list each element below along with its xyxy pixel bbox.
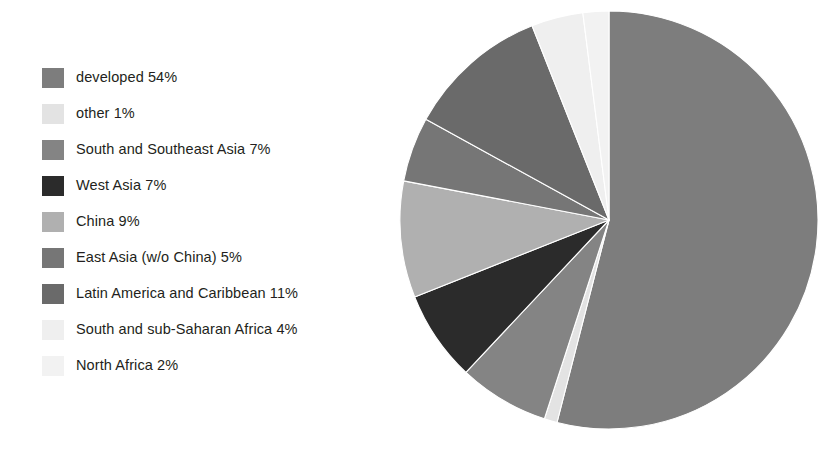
legend-item-label: developed 54% <box>76 70 177 86</box>
legend-item[interactable]: other 1% <box>42 96 372 132</box>
legend-swatch <box>42 284 64 304</box>
legend-item[interactable]: South and Southeast Asia 7% <box>42 132 372 168</box>
legend-item-label: South and sub-Saharan Africa 4% <box>76 322 298 338</box>
legend-swatch <box>42 356 64 376</box>
legend-item-label: Latin America and Caribbean 11% <box>76 286 298 302</box>
legend-swatch <box>42 212 64 232</box>
legend-swatch <box>42 248 64 268</box>
legend-item[interactable]: developed 54% <box>42 60 372 96</box>
pie-chart: developed 54%other 1%South and Southeast… <box>399 10 819 430</box>
legend-item[interactable]: South and sub-Saharan Africa 4% <box>42 312 372 348</box>
legend-item-label: East Asia (w/o China) 5% <box>76 250 242 266</box>
legend-item[interactable]: East Asia (w/o China) 5% <box>42 240 372 276</box>
pie-chart-figure: developed 54%other 1%South and Southeast… <box>0 0 840 451</box>
legend-item[interactable]: North Africa 2% <box>42 348 372 384</box>
legend-swatch <box>42 68 64 88</box>
legend-item-label: North Africa 2% <box>76 358 178 374</box>
pie-chart-svg: developed 54%other 1%South and Southeast… <box>399 10 819 430</box>
legend-item[interactable]: West Asia 7% <box>42 168 372 204</box>
legend-swatch <box>42 104 64 124</box>
legend-item[interactable]: Latin America and Caribbean 11% <box>42 276 372 312</box>
legend-item[interactable]: China 9% <box>42 204 372 240</box>
chart-legend: developed 54%other 1%South and Southeast… <box>42 60 372 384</box>
legend-item-label: other 1% <box>76 106 135 122</box>
legend-swatch <box>42 176 64 196</box>
legend-swatch <box>42 320 64 340</box>
legend-item-label: China 9% <box>76 214 140 230</box>
legend-item-label: West Asia 7% <box>76 178 166 194</box>
legend-swatch <box>42 140 64 160</box>
legend-item-label: South and Southeast Asia 7% <box>76 142 271 158</box>
